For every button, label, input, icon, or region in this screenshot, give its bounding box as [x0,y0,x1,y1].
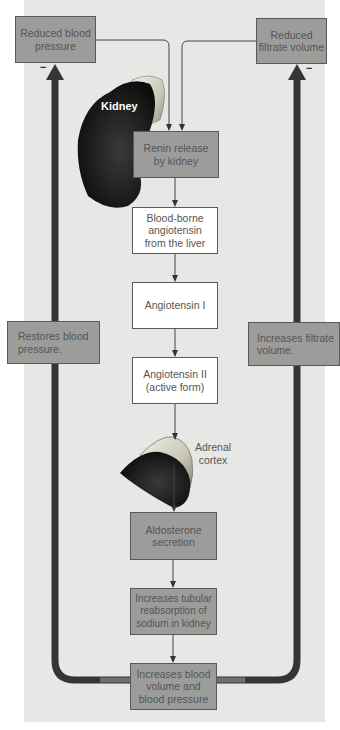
step-label: Angiotensin I [145,299,206,312]
feedback-label: Increases filtrate volume. [257,332,339,357]
feedback-increases-filtrate-volume: Increases filtrate volume. [248,322,340,366]
feedback-restores-blood-pressure: Restores blood pressure. [7,321,100,364]
step-aldosterone-secretion: Aldosterone secretion [130,512,217,560]
adrenal-kidney-illustration [120,437,193,508]
stimulus-reduced-blood-pressure: Reduced blood pressure [15,16,96,63]
step-angiotensin-i: Angiotensin I [132,282,218,329]
step-label: Renin release by kidney [140,142,212,167]
feedback-label: Restores blood pressure. [18,330,99,355]
step-label: Increases tubular reabsorption of sodium… [132,593,215,631]
step-label: Blood-borne angiotensin from the liver [139,212,211,250]
adrenal-cortex-label: Adrenal cortex [188,441,238,466]
step-renin-release: Renin release by kidney [133,131,219,178]
step-label: Aldosterone secretion [141,524,206,549]
kidney-label: Kidney [101,100,138,112]
stimulus-label: Reduced blood pressure [16,27,95,52]
step-angiotensin-ii: Angiotensin II (active form) [132,357,218,404]
step-blood-borne-angiotensin: Blood-borne angiotensin from the liver [132,207,218,254]
stimulus-label: Reduced filtrate volume [257,29,326,54]
step-label: Increases blood volume and blood pressur… [134,668,213,706]
step-label: Angiotensin II (active form) [141,368,209,393]
stimulus-reduced-filtrate-volume: Reduced filtrate volume [256,18,327,64]
step-increases-blood-volume: Increases blood volume and blood pressur… [130,663,217,710]
step-tubular-reabsorption: Increases tubular reabsorption of sodium… [130,588,217,635]
